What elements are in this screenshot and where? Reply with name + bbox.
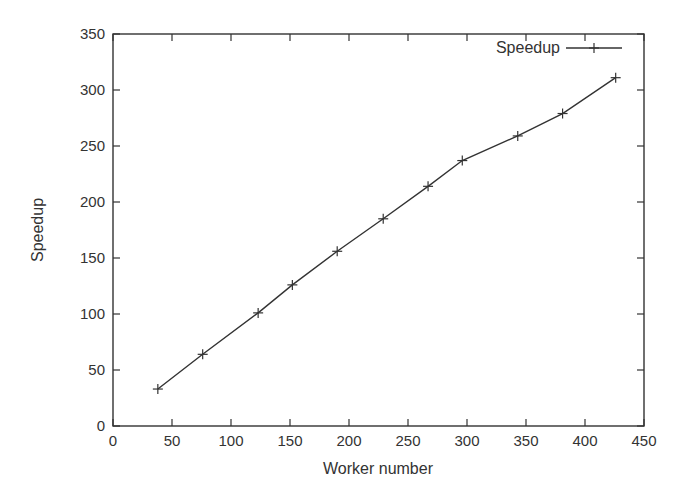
- y-tick-label: 0: [97, 417, 105, 434]
- y-axis-title: Speedup: [29, 198, 46, 262]
- y-axis: 050100150200250300350: [80, 25, 644, 434]
- legend-label: Speedup: [496, 39, 560, 56]
- y-tick-label: 300: [80, 81, 105, 98]
- plot-border: [113, 34, 644, 426]
- x-tick-label: 200: [336, 432, 361, 449]
- data-series: [153, 73, 621, 394]
- data-point-plus-icon: [378, 214, 388, 224]
- y-tick-label: 200: [80, 193, 105, 210]
- data-point-plus-icon: [611, 73, 621, 83]
- x-axis: 050100150200250300350400450: [109, 34, 657, 449]
- x-tick-label: 250: [395, 432, 420, 449]
- legend-marker-plus-icon: [589, 43, 599, 53]
- y-tick-label: 250: [80, 137, 105, 154]
- x-tick-label: 100: [218, 432, 243, 449]
- plot-frame: [113, 34, 644, 426]
- speedup-chart: 050100150200250300350400450 050100150200…: [0, 0, 680, 501]
- data-point-plus-icon: [332, 246, 342, 256]
- y-tick-label: 150: [80, 249, 105, 266]
- data-point-plus-icon: [558, 109, 568, 119]
- data-point-plus-icon: [513, 131, 523, 141]
- x-axis-title: Worker number: [323, 460, 434, 477]
- y-tick-label: 350: [80, 25, 105, 42]
- x-tick-label: 50: [164, 432, 181, 449]
- x-tick-label: 300: [454, 432, 479, 449]
- x-tick-label: 150: [277, 432, 302, 449]
- x-tick-label: 350: [513, 432, 538, 449]
- y-tick-label: 100: [80, 305, 105, 322]
- legend: Speedup: [496, 39, 622, 56]
- x-tick-label: 0: [109, 432, 117, 449]
- x-tick-label: 450: [631, 432, 656, 449]
- y-tick-label: 50: [88, 361, 105, 378]
- x-tick-label: 400: [572, 432, 597, 449]
- series-line: [158, 78, 616, 389]
